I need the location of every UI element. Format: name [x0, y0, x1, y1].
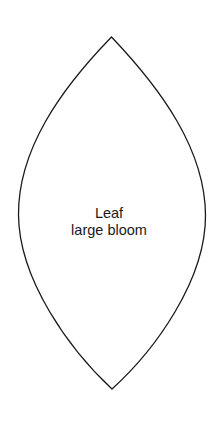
leaf-label-title: Leaf	[0, 205, 218, 222]
leaf-template-canvas: Leaf large bloom	[0, 0, 218, 435]
leaf-label-subtitle: large bloom	[0, 222, 218, 239]
leaf-label: Leaf large bloom	[0, 205, 218, 239]
